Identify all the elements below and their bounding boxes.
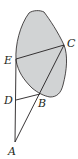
segment-ae (15, 59, 16, 142)
label-e: E (3, 54, 12, 67)
label-b: B (37, 97, 46, 110)
shaded-region (16, 11, 67, 97)
geometry-diagram: C E D B A (0, 0, 78, 159)
label-c: C (67, 37, 76, 50)
label-a: A (7, 145, 16, 158)
label-d: D (3, 94, 13, 107)
